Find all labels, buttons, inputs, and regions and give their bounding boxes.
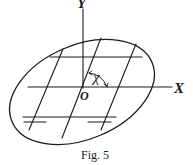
slanted-line-middle xyxy=(62,38,101,138)
origin-label: O xyxy=(80,89,89,103)
diagram-canvas: Y X O χ Fig. 5 xyxy=(0,0,193,165)
x-axis-label: X xyxy=(173,80,185,96)
y-axis-label: Y xyxy=(77,0,88,11)
slanted-line-left xyxy=(29,49,63,130)
figure-caption: Fig. 5 xyxy=(81,148,109,162)
figure-5: Y X O χ Fig. 5 xyxy=(0,0,193,165)
angle-label: χ xyxy=(91,69,100,85)
